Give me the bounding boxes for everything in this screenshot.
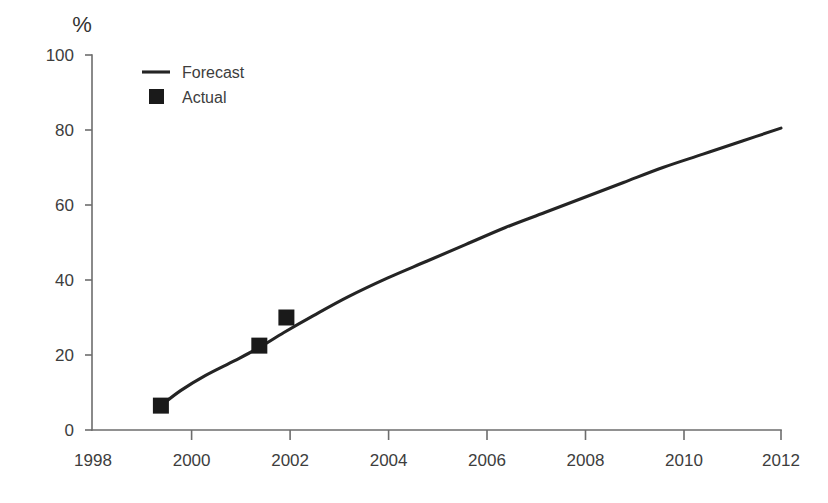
data-point-actual-2 bbox=[278, 310, 294, 326]
y-tick-label-20: 20 bbox=[55, 346, 74, 365]
chart-background bbox=[0, 0, 828, 503]
x-tick-label-2002: 2002 bbox=[271, 451, 309, 470]
legend-actual-square-icon bbox=[149, 89, 164, 104]
x-tick-label-2000: 2000 bbox=[173, 451, 211, 470]
x-tick-label-2010: 2010 bbox=[665, 451, 703, 470]
forecast-actual-line-chart: % 100 80 60 40 20 0 bbox=[0, 0, 828, 503]
x-tick-label-2012: 2012 bbox=[762, 451, 800, 470]
x-tick-label-1998: 1998 bbox=[74, 451, 112, 470]
y-tick-label-40: 40 bbox=[55, 271, 74, 290]
x-tick-label-2008: 2008 bbox=[567, 451, 605, 470]
y-axis-unit-label: % bbox=[72, 12, 92, 37]
chart-container: % 100 80 60 40 20 0 bbox=[0, 0, 828, 503]
y-tick-label-80: 80 bbox=[55, 121, 74, 140]
y-tick-label-100: 100 bbox=[46, 46, 74, 65]
legend-label-forecast: Forecast bbox=[182, 64, 245, 81]
x-tick-label-2006: 2006 bbox=[468, 451, 506, 470]
data-point-actual-0 bbox=[153, 398, 169, 414]
y-tick-label-0: 0 bbox=[65, 421, 74, 440]
x-tick-label-2004: 2004 bbox=[370, 451, 408, 470]
data-point-actual-1 bbox=[251, 338, 267, 354]
y-tick-label-60: 60 bbox=[55, 196, 74, 215]
legend-label-actual: Actual bbox=[182, 89, 226, 106]
